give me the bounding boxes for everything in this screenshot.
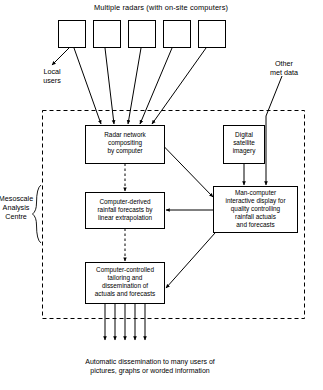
arrow-radar1-to-local-users — [52, 48, 69, 65]
label-mesoscale-analysis-centre: Mesoscale Analysis Centre — [0, 195, 34, 221]
radar-box-3[interactable] — [129, 21, 156, 48]
radar-box-4[interactable] — [164, 21, 191, 48]
arrow-compositing-to-display — [165, 147, 214, 197]
label-other-met-data: Other met data — [255, 60, 313, 78]
label-local-users: Local users — [26, 68, 78, 86]
radar-box-2[interactable] — [94, 21, 121, 48]
label-tailoring-dissemination: Computer-controlled tailoring and dissem… — [86, 266, 164, 298]
radar-box-1[interactable] — [59, 21, 86, 48]
arrow-radar5-to-compositing — [152, 48, 206, 124]
arrow-radar4-to-compositing — [140, 48, 172, 124]
output-arrow-group — [105, 304, 145, 341]
label-digital-satellite-imagery: Digital satellite imagery — [224, 131, 264, 155]
radar-box-5[interactable] — [199, 21, 226, 48]
diagram-title: Multiple radars (with on-site computers) — [55, 4, 267, 12]
label-rainfall-forecasts: Computer-derived rainfall forecasts by l… — [86, 198, 164, 222]
label-man-computer-display: Man-computer interactive display for qua… — [214, 189, 297, 229]
arrow-radar1-to-compositing — [74, 48, 101, 124]
arrow-radar3-to-compositing — [128, 48, 141, 124]
arrow-radar2-to-compositing — [105, 48, 114, 124]
label-radar-network-compositing: Radar network compositing by computer — [86, 131, 164, 155]
radar-feed-arrows — [74, 48, 206, 124]
arrow-display-to-tailoring — [166, 233, 215, 288]
diagram-caption: Automatic dissemination to many users of… — [47, 358, 253, 376]
diagram-canvas: Multiple radars (with on-site computers)… — [0, 0, 323, 390]
radar-box-group — [59, 21, 226, 48]
